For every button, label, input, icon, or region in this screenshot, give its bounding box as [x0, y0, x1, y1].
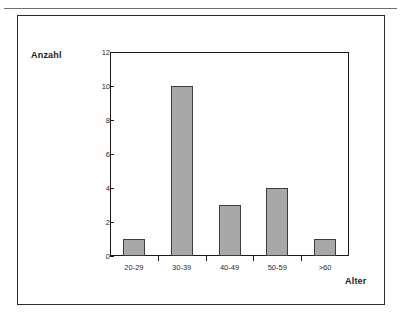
x-axis-title: Alter	[345, 276, 367, 286]
x-axis-tick-mark	[301, 256, 302, 261]
x-axis-tick-label: 20-29	[124, 263, 143, 272]
bar	[266, 188, 288, 256]
x-axis-tick-mark	[158, 256, 159, 261]
bar	[171, 86, 193, 256]
x-axis-tick-mark	[206, 256, 207, 261]
x-axis-tick-mark	[253, 256, 254, 261]
x-axis-tick-label: 40-49	[220, 263, 239, 272]
y-axis-tick-labels: 024681012	[84, 52, 110, 256]
x-axis-tick-label: 50-59	[268, 263, 287, 272]
page-header-rule	[4, 8, 397, 9]
y-axis-tick-label: 4	[90, 184, 110, 193]
y-axis-tick-label: 12	[90, 48, 110, 57]
bar	[123, 239, 145, 256]
x-axis-tick-marks	[110, 256, 349, 262]
y-axis-tick-label: 10	[90, 82, 110, 91]
x-axis-tick-labels: 20-2930-3940-4950-59>60	[110, 263, 349, 277]
bar	[219, 205, 241, 256]
y-axis-tick-label: 0	[90, 252, 110, 261]
bar	[314, 239, 336, 256]
y-axis-tick-label: 8	[90, 116, 110, 125]
x-axis-tick-label: 30-39	[172, 263, 191, 272]
x-axis-tick-label: >60	[319, 263, 332, 272]
bar-series	[110, 52, 349, 256]
y-axis-tick-label: 2	[90, 218, 110, 227]
y-axis-tick-label: 6	[90, 150, 110, 159]
y-axis-title: Anzahl	[31, 50, 62, 60]
